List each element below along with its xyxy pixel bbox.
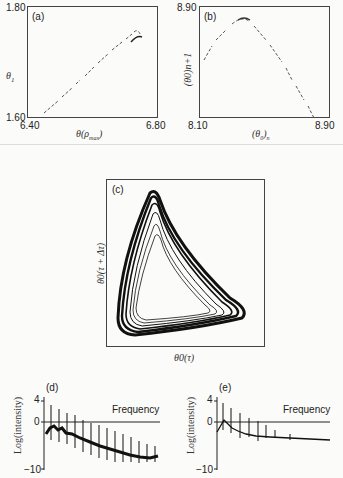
e-spectrum bbox=[0, 0, 343, 478]
